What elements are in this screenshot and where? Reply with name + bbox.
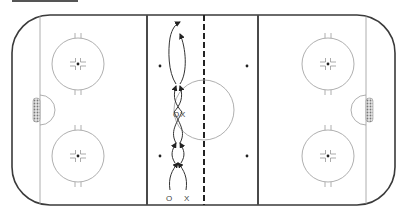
rink-diagram: O X O X bbox=[0, 0, 405, 215]
neutral-dot bbox=[246, 155, 249, 158]
player-x-mid: X bbox=[180, 110, 186, 119]
player-o-start: O bbox=[166, 194, 172, 203]
neutral-dot bbox=[246, 65, 249, 68]
faceoff-dot bbox=[77, 155, 80, 158]
rink-svg: O X O X bbox=[0, 0, 405, 215]
faceoff-dot bbox=[327, 155, 330, 158]
faceoff-dot bbox=[77, 63, 80, 66]
header-bar bbox=[12, 0, 78, 2]
player-x-start: X bbox=[184, 194, 190, 203]
goal-net-right bbox=[366, 98, 373, 122]
neutral-dot bbox=[159, 65, 162, 68]
goal-net-left bbox=[33, 98, 40, 122]
faceoff-dot bbox=[327, 63, 330, 66]
neutral-dot bbox=[159, 155, 162, 158]
player-o-mid: O bbox=[173, 110, 179, 119]
